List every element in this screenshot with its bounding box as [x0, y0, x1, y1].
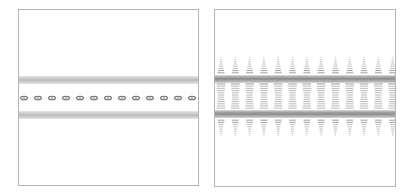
contour-plot-left [19, 10, 198, 185]
contour-ellipse [35, 96, 42, 100]
contour-ellipse-inner [149, 97, 152, 98]
contour-ellipse-inner [107, 97, 110, 98]
contour-ellipse-inner [135, 97, 138, 98]
contour-ellipse-inner [37, 97, 40, 98]
contour-ellipse-inner [79, 97, 82, 98]
contour-ellipse-inner [23, 97, 26, 98]
contour-ellipse-inner [177, 97, 180, 98]
contour-ellipse-inner [163, 97, 166, 98]
contour-ellipse [63, 96, 70, 100]
contour-ellipse [105, 96, 112, 100]
contour-ellipse-inner [191, 97, 194, 98]
contour-ellipse [119, 96, 126, 100]
contour-ellipse-inner [121, 97, 124, 98]
contour-ellipse-inner [51, 97, 54, 98]
contour-ellipse [175, 96, 182, 100]
contour-ellipse-inner [93, 97, 96, 98]
contour-ellipse [21, 96, 28, 100]
contour-panel-right [214, 9, 396, 187]
contour-ellipse [161, 96, 168, 100]
contour-ellipse [49, 96, 56, 100]
contour-ellipse-inner [65, 97, 68, 98]
contour-plot-right [215, 10, 395, 186]
contour-ellipse [147, 96, 154, 100]
contour-ellipse [77, 96, 84, 100]
contour-ellipse [133, 96, 140, 100]
contour-ellipse [189, 96, 196, 100]
contour-ellipse [91, 96, 98, 100]
contour-panel-left [18, 9, 199, 186]
